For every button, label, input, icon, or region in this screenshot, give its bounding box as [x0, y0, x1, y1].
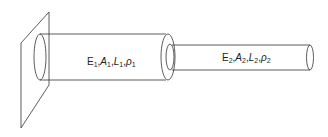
rod2-right-end [307, 45, 314, 70]
segment1-label: E1,A1,L1,ρ1 [87, 56, 136, 68]
bar-drawing [0, 0, 328, 137]
rod1-right-end-outer [161, 34, 175, 80]
diagram-canvas: E1,A1,L1,ρ1 E2,A2,L2,ρ2 [0, 0, 328, 137]
segment2-label: E2,A2,L2,ρ2 [222, 52, 271, 64]
rod1-right-end-inner [166, 44, 174, 70]
rod1-left-end [34, 34, 46, 80]
